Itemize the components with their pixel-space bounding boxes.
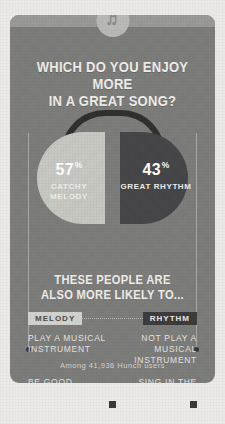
page-title: WHICH DO YOU ENJOY MORE IN A GREAT SONG? — [17, 59, 208, 110]
comparison-melody-item: BE GOOD WHISTLERS — [28, 377, 109, 383]
melody-label: CATCHY MELODY — [33, 182, 105, 202]
subhead-line-2: ALSO MORE LIKELY TO... — [17, 288, 208, 303]
infographic-page: WHICH DO YOU ENJOY MORE IN A GREAT SONG?… — [0, 0, 225, 424]
comparison-row: BE GOOD WHISTLERS SING IN THE SHOWER — [28, 377, 197, 383]
headline-line-1: WHICH DO YOU ENJOY MORE — [17, 59, 208, 93]
music-note-icon — [96, 15, 129, 37]
legend-row: MELODY RHYTHM — [28, 312, 197, 325]
pie-slice-rhythm: 43% GREAT RHYTHM — [120, 132, 188, 224]
legend-badge-rhythm: RHYTHM — [143, 312, 197, 325]
headline-line-2: IN A GREAT SONG? — [17, 93, 208, 110]
legend-connector-line — [76, 318, 149, 320]
decorative-square — [190, 401, 197, 408]
subhead-line-1: THESE PEOPLE ARE — [17, 273, 208, 288]
rhythm-value: 43% — [122, 160, 190, 180]
headphones-pie-chart: 57% CATCHY MELODY 43% GREAT RHYTHM — [10, 110, 215, 232]
comparison-rhythm-item: SING IN THE SHOWER — [116, 377, 197, 383]
legend-badge-melody: MELODY — [28, 312, 82, 325]
rhythm-label: GREAT RHYTHM — [120, 182, 192, 192]
melody-value: 57% — [35, 160, 103, 180]
comparison-list: PLAY A MUSICAL INSTRUMENT NOT PLAY A MUS… — [28, 333, 197, 383]
source-note: Among 41,936 Hunch users — [10, 361, 215, 370]
decorative-square — [109, 401, 116, 408]
pie-slice-melody: 57% CATCHY MELODY — [37, 132, 105, 224]
section-subtitle: THESE PEOPLE ARE ALSO MORE LIKELY TO... — [17, 273, 208, 303]
infographic-card: WHICH DO YOU ENJOY MORE IN A GREAT SONG?… — [10, 15, 215, 383]
